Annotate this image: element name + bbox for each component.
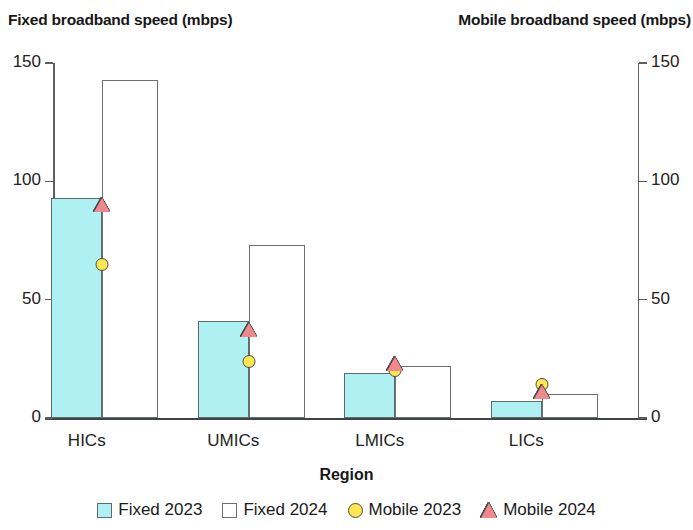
x-axis-title: Region [0,466,693,484]
legend-item-mobile-2023[interactable]: Mobile 2023 [348,500,462,520]
legend-label: Mobile 2023 [369,500,462,520]
right-axis-tick-label: 150 [651,52,679,72]
x-axis-line [45,418,647,420]
right-axis-tick [639,417,647,419]
marker-mobile-2023-umics [242,355,255,368]
bar-fixed-2023-lics [491,401,542,418]
left-axis-tick [45,62,53,64]
bar-fixed-2024-lics [542,394,598,418]
right-axis-tick-label: 50 [651,289,670,309]
bar-fixed-2024-hics [102,80,158,418]
right-axis-tick-label: 100 [651,170,679,190]
bar-fixed-2023-hics [51,198,102,418]
x-axis-label-lmics: LMICs [355,431,404,451]
square-cyan-icon [97,503,112,518]
right-axis-tick [639,299,647,301]
legend-label: Mobile 2024 [503,500,596,520]
x-axis-label-lics: LICs [509,431,544,451]
marker-mobile-2024-lics [534,385,550,399]
legend-item-fixed-2024[interactable]: Fixed 2024 [222,500,327,520]
plot-area: 050100150 050100150 HICsUMICsLMICsLICs [53,63,639,418]
marker-mobile-2024-lmics [387,357,403,371]
left-axis-tick-label: 0 [32,407,41,427]
right-axis-tick [639,181,647,183]
legend-item-fixed-2023[interactable]: Fixed 2023 [97,500,202,520]
marker-mobile-2024-umics [241,323,257,337]
circle-yellow-icon [348,503,363,518]
x-axis-label-hics: HICs [68,431,106,451]
left-axis-tick-label: 100 [13,170,41,190]
left-axis-tick-label: 150 [13,52,41,72]
bar-fixed-2024-umics [249,245,305,418]
right-axis-tick [639,62,647,64]
chart-legend: Fixed 2023Fixed 2024Mobile 2023Mobile 20… [0,500,693,520]
marker-mobile-2023-hics [96,258,109,271]
right-axis-tick-label: 0 [651,407,660,427]
bar-fixed-2024-lmics [395,366,451,418]
chart-figure: Fixed broadband speed (mbps) Mobile broa… [0,0,693,530]
x-axis-label-umics: UMICs [207,431,259,451]
bar-fixed-2023-lmics [344,373,395,418]
legend-label: Fixed 2023 [118,500,202,520]
legend-label: Fixed 2024 [243,500,327,520]
left-axis-tick-label: 50 [22,289,41,309]
left-axis-tick [45,181,53,183]
legend-item-mobile-2024[interactable]: Mobile 2024 [481,500,596,520]
square-white-icon [222,503,237,518]
marker-mobile-2024-hics [94,198,110,212]
left-axis-title: Fixed broadband speed (mbps) [8,11,232,29]
right-axis-title: Mobile broadband speed (mbps) [458,11,691,29]
right-axis-line [638,63,640,419]
triangle-pink-icon [481,503,497,518]
